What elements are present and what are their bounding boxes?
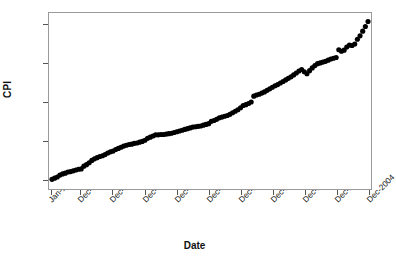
plot-area [48, 12, 372, 190]
data-point [360, 29, 365, 34]
x-axis-title: Date [0, 240, 389, 251]
cpi-series [49, 13, 371, 189]
data-point [352, 41, 357, 46]
data-point [363, 24, 368, 29]
data-point [334, 55, 339, 60]
data-point [249, 99, 254, 104]
data-point [365, 19, 370, 24]
y-axis-title: CPI [2, 81, 13, 98]
data-point [357, 33, 362, 38]
